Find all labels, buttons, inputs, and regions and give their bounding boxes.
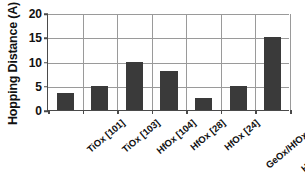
y-axis-tick-label: 20 xyxy=(29,7,42,21)
x-axis-tick-mark xyxy=(255,110,257,114)
gridline-vertical xyxy=(83,14,84,110)
bar xyxy=(57,93,74,110)
y-axis-tick-label: 0 xyxy=(35,104,42,118)
y-axis-tick-label: 10 xyxy=(29,56,42,70)
y-axis-tick-mark xyxy=(44,38,48,40)
gridline-horizontal xyxy=(48,63,289,64)
x-axis-tick-mark xyxy=(221,110,223,114)
y-axis-tick-mark xyxy=(44,62,48,64)
gridline-horizontal xyxy=(48,14,289,15)
x-axis-tick-mark xyxy=(290,110,292,114)
bar xyxy=(160,71,177,110)
bar xyxy=(230,86,247,110)
x-axis-category-label: HfOx [104] xyxy=(154,117,197,156)
y-axis-tick-label: 5 xyxy=(35,80,42,94)
x-axis-category-label: TiOx [101] xyxy=(85,117,127,155)
bar-chart-figure: Hopping Distance (A) 05101520 TiOx [101]… xyxy=(0,0,305,189)
bar xyxy=(195,98,212,110)
bar xyxy=(91,86,108,110)
y-axis-tick-label: 15 xyxy=(29,31,42,45)
y-axis-title: Hopping Distance (A) xyxy=(6,5,20,125)
x-axis-tick-mark xyxy=(117,110,119,114)
x-axis-tick-mark xyxy=(83,110,85,114)
x-axis-category-label: HfOx [24] xyxy=(222,117,261,153)
bar xyxy=(126,62,143,111)
gridline-vertical xyxy=(255,14,256,110)
x-axis-tick-mark xyxy=(186,110,188,114)
gridline-horizontal xyxy=(48,38,289,39)
y-axis-tick-mark xyxy=(44,13,48,15)
gridline-vertical xyxy=(117,14,118,110)
gridline-vertical xyxy=(186,14,187,110)
x-axis-tick-mark xyxy=(48,110,50,114)
x-axis-category-label: GeOx/HfOx [94] xyxy=(263,117,305,171)
x-axis-tick-mark xyxy=(152,110,154,114)
gridline-vertical xyxy=(290,14,291,110)
plot-area: 05101520 xyxy=(47,14,289,111)
y-axis-tick-mark xyxy=(44,86,48,88)
gridline-vertical xyxy=(221,14,222,110)
bar xyxy=(264,37,281,110)
gridline-vertical xyxy=(152,14,153,110)
